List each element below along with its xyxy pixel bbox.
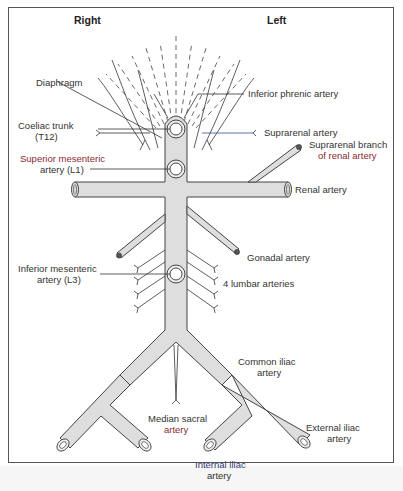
suprarenal-branch-vessel: [248, 145, 301, 182]
left-gonadal-vessel: [187, 206, 239, 253]
label-sma-1: Superior mesenteric: [20, 153, 105, 164]
label-sma-2: artery (L1): [40, 164, 84, 175]
label-median-sacral-1: Median sacral: [148, 413, 207, 424]
right-suprarenal-tick: [96, 130, 100, 136]
right-iliac-branches: [60, 375, 148, 448]
right-gonadal-vessel: [117, 214, 165, 258]
label-common-iliac-2: artery: [257, 367, 282, 378]
left-iliac-branches: [205, 375, 310, 450]
label-internal-iliac-2: artery: [207, 470, 232, 481]
label-ima-1: Inferior mesenteric: [18, 263, 97, 274]
label-lumbar: 4 lumbar arteries: [223, 278, 295, 289]
iliac-ends: [55, 434, 313, 454]
label-coeliac-1: Coeliac trunk: [18, 120, 74, 131]
label-diaphragm: Diaphragm: [36, 77, 83, 88]
label-internal-iliac-1: Internal iliac: [195, 459, 246, 470]
label-suprarenal: Suprarenal artery: [264, 127, 338, 138]
diaphragm-leader: [58, 82, 162, 138]
label-external-iliac-2: artery: [327, 433, 352, 444]
abdominal-aorta: [75, 116, 288, 385]
label-external-iliac-1: External iliac: [306, 422, 360, 433]
label-common-iliac-1: Common iliac: [238, 356, 296, 367]
label-suprarenal-branch-2: of renal artery: [318, 150, 377, 161]
label-gonadal: Gonadal artery: [247, 252, 310, 263]
label-renal: Renal artery: [295, 184, 347, 195]
right-inferior-phrenic: [154, 94, 168, 118]
median-sacral-vessel: [172, 345, 180, 404]
label-median-sacral-2: artery: [164, 424, 189, 435]
label-suprarenal-branch-1: Suprarenal branch: [309, 139, 387, 150]
diaphragm-fibres: [106, 36, 246, 128]
label-ima-2: artery (L3): [37, 274, 81, 285]
label-coeliac-2: (T12): [35, 131, 58, 142]
aorta-branches-diagram: Right Left: [0, 0, 403, 491]
header-right: Right: [74, 14, 101, 26]
header-left: Left: [267, 14, 287, 26]
label-inferior-phrenic: Inferior phrenic artery: [248, 88, 339, 99]
